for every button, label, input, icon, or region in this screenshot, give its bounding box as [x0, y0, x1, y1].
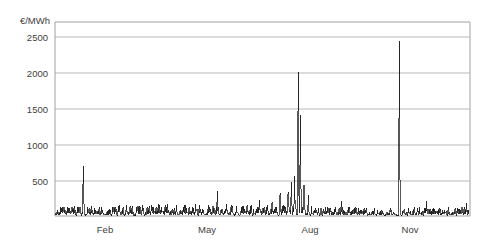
price-series-line [55, 41, 469, 215]
screenshot-root: €/MWh 2500 2000 1500 1000 500 Feb May Au… [0, 0, 487, 249]
grid-lines [55, 37, 470, 181]
plot-frame [55, 22, 470, 216]
plot-area [0, 0, 487, 249]
electricity-price-chart: €/MWh 2500 2000 1500 1000 500 Feb May Au… [0, 0, 487, 249]
